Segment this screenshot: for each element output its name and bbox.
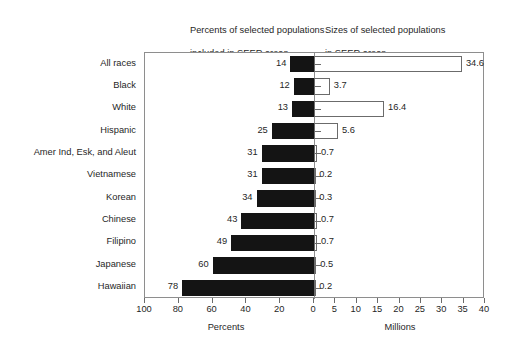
bar-row: 1434.6 (145, 53, 485, 75)
tick-label-percent: 80 (163, 304, 193, 314)
bar-row: 310.7 (145, 142, 485, 164)
bar-percent (290, 56, 314, 72)
bar-percent (272, 123, 314, 139)
seer-population-chart: Percents of selected populations include… (0, 0, 506, 350)
row-tick-mark (315, 131, 321, 132)
bar-millions-value: 0.2 (319, 169, 332, 179)
bar-row: 490.7 (145, 232, 485, 254)
bar-millions-value: 16.4 (388, 102, 406, 112)
row-tick-mark (315, 86, 321, 87)
bar-percent (241, 213, 314, 229)
bar-millions-value: 0.2 (319, 281, 332, 291)
bar-row: 123.7 (145, 75, 485, 97)
bar-percent (262, 168, 314, 184)
bar-row: 430.7 (145, 210, 485, 232)
bar-percent-value: 49 (197, 236, 227, 246)
category-label: Japanese (0, 259, 136, 269)
category-label: Filipino (0, 236, 136, 246)
axis-tick (279, 298, 280, 303)
bar-row: 255.6 (145, 120, 485, 142)
axis-tick (484, 298, 485, 303)
bar-row: 310.2 (145, 165, 485, 187)
axis-tick (356, 298, 357, 303)
axis-tick (399, 298, 400, 303)
category-label: Chinese (0, 214, 136, 224)
category-label: Black (0, 80, 136, 90)
bar-percent (257, 190, 314, 206)
bar-percent-value: 31 (228, 147, 258, 157)
bar-percent-value: 12 (260, 80, 290, 90)
category-label: Amer Ind, Esk, and Aleut (0, 147, 136, 157)
bar-percent-value: 25 (238, 125, 268, 135)
tick-label-percent: 60 (197, 304, 227, 314)
category-label: Hispanic (0, 125, 136, 135)
bar-percent (182, 280, 314, 296)
axis-tick (377, 298, 378, 303)
bottom-axis-tick-labels: 100806040200510152025303540 (0, 304, 506, 316)
bar-millions-value: 34.6 (466, 58, 484, 68)
bar-millions-value: 0.7 (321, 214, 334, 224)
row-tick-mark (315, 109, 321, 110)
category-label: Korean (0, 192, 136, 202)
category-label: All races (0, 58, 136, 68)
bar-millions (314, 56, 462, 72)
bar-millions (314, 101, 384, 117)
bar-millions-value: 0.7 (321, 236, 334, 246)
bar-percent-value: 78 (148, 281, 178, 291)
bar-percent (231, 235, 314, 251)
axis-tick (212, 298, 213, 303)
bar-row: 780.2 (145, 277, 485, 299)
bar-percent (292, 101, 314, 117)
plot-area: 1434.6123.71316.4255.6310.7310.2340.3430… (144, 52, 484, 298)
bar-millions-value: 0.5 (320, 259, 333, 269)
category-label: White (0, 102, 136, 112)
bar-millions-value: 0.7 (321, 147, 334, 157)
bar-percent-value: 34 (223, 192, 253, 202)
axis-tick (245, 298, 246, 303)
tick-label-percent: 20 (264, 304, 294, 314)
axis-tick (313, 298, 314, 303)
bar-percent (294, 78, 314, 94)
bar-percent-value: 13 (258, 102, 288, 112)
axis-tick (420, 298, 421, 303)
bar-percent-value: 60 (179, 259, 209, 269)
bar-millions-value: 0.3 (319, 192, 332, 202)
tick-label-millions: 40 (469, 304, 499, 314)
bar-percent (213, 257, 314, 273)
category-label: Hawaiian (0, 281, 136, 291)
bar-percent (262, 145, 314, 161)
axis-tick (463, 298, 464, 303)
bar-millions-value: 5.6 (342, 125, 355, 135)
tick-label-percent: 40 (230, 304, 260, 314)
axis-tick (334, 298, 335, 303)
bar-row: 600.5 (145, 254, 485, 276)
caption-sizes-line1: Sizes of selected populations (325, 25, 445, 37)
caption-percents-line1: Percents of selected populations (190, 25, 324, 37)
bar-percent-value: 14 (256, 58, 286, 68)
axis-title-percents: Percents (186, 322, 266, 332)
bar-millions-value: 3.7 (334, 80, 347, 90)
bar-percent-value: 43 (207, 214, 237, 224)
axis-tick (178, 298, 179, 303)
bar-row: 1316.4 (145, 98, 485, 120)
axis-tick (144, 298, 145, 303)
row-tick-mark (315, 64, 321, 65)
category-label: Vietnamese (0, 169, 136, 179)
bar-percent-value: 31 (228, 169, 258, 179)
tick-label-percent: 100 (129, 304, 159, 314)
bar-row: 340.3 (145, 187, 485, 209)
axis-tick (441, 298, 442, 303)
axis-title-millions: Millions (360, 322, 440, 332)
